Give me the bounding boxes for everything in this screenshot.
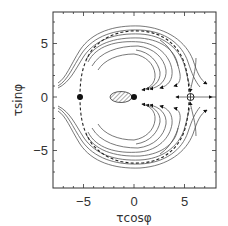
y-tick-label-neg5: −5 bbox=[33, 143, 48, 158]
fixed-point-center bbox=[131, 94, 137, 100]
x-tick-label-neg5: −5 bbox=[76, 194, 91, 209]
hatched-region bbox=[110, 92, 132, 103]
y-axis-title: τsinφ bbox=[11, 84, 25, 116]
x-tick-label-5: 5 bbox=[181, 194, 188, 209]
saddle-point-right bbox=[187, 94, 194, 101]
plot-area bbox=[58, 26, 212, 168]
phase-portrait-figure: −5 0 5 5 0 −5 τcosφ τsinφ bbox=[0, 0, 228, 226]
x-axis-title: τcosφ bbox=[116, 211, 151, 225]
y-tick-label-0: 0 bbox=[41, 90, 48, 105]
x-tick-label-0: 0 bbox=[130, 194, 137, 209]
fixed-point-left bbox=[77, 94, 83, 100]
y-tick-label-5: 5 bbox=[41, 36, 48, 51]
